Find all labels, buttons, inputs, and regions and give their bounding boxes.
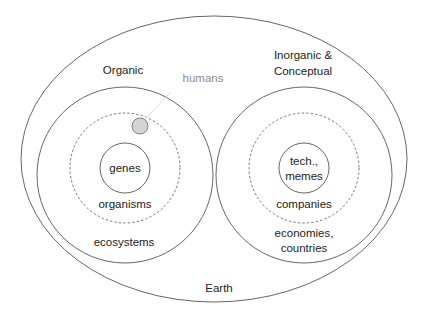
inorganic-title-line2: Conceptual xyxy=(274,65,332,77)
economies-label: economies, xyxy=(275,227,334,239)
humans-leader-line xyxy=(145,92,171,119)
organisms-label: organisms xyxy=(98,198,151,210)
humans-label: humans xyxy=(183,72,224,84)
nested-circles-diagram: Organic humans genes organisms ecosystem… xyxy=(0,0,424,316)
earth-ellipse xyxy=(21,16,407,302)
ecosystems-label: ecosystems xyxy=(94,236,155,248)
tech-label: tech., xyxy=(290,155,318,167)
earth-label: Earth xyxy=(205,282,233,294)
humans-marker xyxy=(132,118,148,134)
genes-label: genes xyxy=(109,162,141,174)
tech-memes-circle xyxy=(279,143,329,193)
memes-label: memes xyxy=(285,170,323,182)
organic-title: Organic xyxy=(103,64,144,76)
companies-label: companies xyxy=(276,198,332,210)
countries-label: countries xyxy=(281,242,328,254)
inorganic-title-line1: Inorganic & xyxy=(274,49,333,61)
